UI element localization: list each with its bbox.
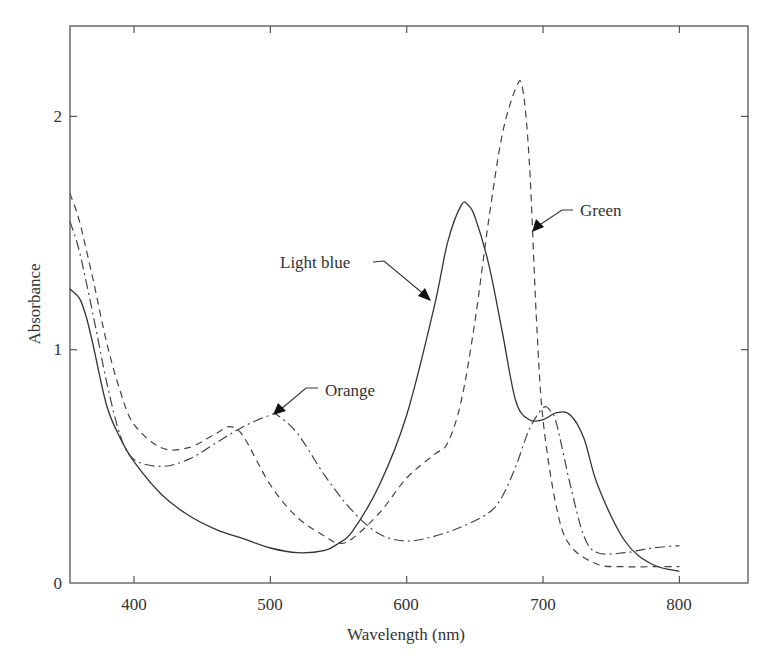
x-tick-500: 500: [257, 595, 283, 614]
arrow-line-icon: [280, 388, 318, 410]
tick-labels: 400 500 600 700 800 0 1 2: [54, 107, 692, 614]
y-tick-0: 0: [54, 574, 63, 593]
axis-ticks: [70, 26, 748, 583]
x-tick-800: 800: [666, 595, 692, 614]
annotation-light-blue: Light blue: [280, 253, 431, 301]
annotation-orange: Orange: [273, 381, 375, 415]
x-tick-600: 600: [393, 595, 419, 614]
arrow-line-icon: [373, 261, 426, 296]
arrowhead-icon: [273, 403, 286, 415]
x-tick-400: 400: [121, 595, 147, 614]
arrow-line-icon: [538, 210, 573, 226]
annotation-label-green: Green: [580, 201, 622, 220]
arrowhead-icon: [532, 219, 544, 232]
x-axis-title: Wavelength (nm): [347, 625, 465, 644]
arrowhead-icon: [418, 288, 431, 301]
annotation-green: Green: [532, 201, 622, 232]
y-tick-2: 2: [54, 107, 63, 126]
annotation-label-light-blue: Light blue: [280, 253, 350, 272]
plot-frame: [70, 26, 748, 583]
y-tick-1: 1: [54, 340, 63, 359]
annotation-label-orange: Orange: [325, 381, 375, 400]
absorbance-chart: 400 500 600 700 800 0 1 2 Wavelength (nm…: [0, 0, 768, 665]
y-axis-title: Absorbance: [25, 263, 44, 344]
series-lines: [70, 81, 680, 572]
x-tick-700: 700: [530, 595, 556, 614]
